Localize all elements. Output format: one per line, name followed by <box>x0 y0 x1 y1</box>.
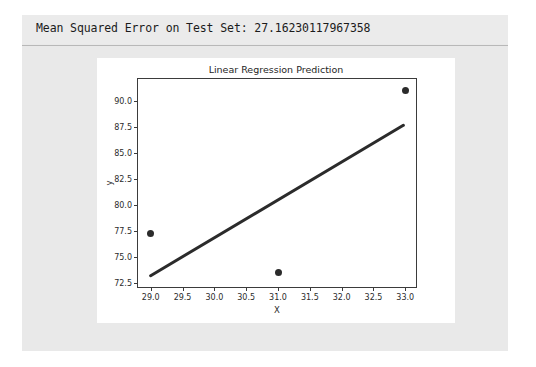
x-tick-label: 29.5 <box>174 293 192 302</box>
screenshot-root: Mean Squared Error on Test Set: 27.16230… <box>0 0 536 367</box>
mse-output-text: Mean Squared Error on Test Set: 27.16230… <box>36 21 370 35</box>
x-tick-mark <box>278 287 279 291</box>
y-tick-label: 90.0 <box>114 96 132 105</box>
plot-axes: y X 72.575.077.580.082.585.087.590.0 29.… <box>137 78 417 288</box>
y-tick-label: 80.0 <box>114 200 132 209</box>
x-tick-mark <box>246 287 247 291</box>
x-tick-mark <box>183 287 184 291</box>
x-tick-label: 33.0 <box>396 293 414 302</box>
x-tick-label: 30.5 <box>237 293 255 302</box>
x-tick-mark <box>214 287 215 291</box>
header-divider <box>22 45 508 46</box>
plot-area <box>138 79 416 287</box>
y-tick-label: 85.0 <box>114 148 132 157</box>
x-tick-label: 31.5 <box>301 293 319 302</box>
data-point <box>402 87 409 94</box>
y-axis-label: y <box>104 180 114 185</box>
x-axis-label: X <box>138 305 416 315</box>
matplotlib-figure: Linear Regression Prediction y X 72.575.… <box>97 58 455 323</box>
y-tick-label: 75.0 <box>114 252 132 261</box>
x-tick-mark <box>151 287 152 291</box>
metric-output-header: Mean Squared Error on Test Set: 27.16230… <box>22 15 508 44</box>
x-tick-mark <box>373 287 374 291</box>
x-tick-mark <box>310 287 311 291</box>
x-tick-mark <box>405 287 406 291</box>
y-tick-label: 82.5 <box>114 174 132 183</box>
regression-line <box>138 79 416 287</box>
data-point <box>275 269 282 276</box>
y-tick-label: 77.5 <box>114 226 132 235</box>
x-tick-label: 32.5 <box>365 293 383 302</box>
x-tick-label: 32.0 <box>333 293 351 302</box>
x-tick-label: 30.0 <box>205 293 223 302</box>
x-tick-mark <box>342 287 343 291</box>
y-tick-label: 87.5 <box>114 122 132 131</box>
x-tick-label: 31.0 <box>269 293 287 302</box>
x-tick-label: 29.0 <box>142 293 160 302</box>
y-tick-label: 72.5 <box>114 278 132 287</box>
chart-title: Linear Regression Prediction <box>97 64 455 75</box>
